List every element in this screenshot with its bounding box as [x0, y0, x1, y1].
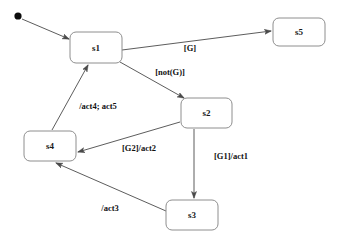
- state-node-s2[interactable]: s2: [181, 98, 232, 128]
- transition-s1-to-s5[interactable]: [122, 31, 271, 50]
- transition-label-s1-to-s5: [G]: [184, 43, 196, 53]
- states-layer: s1s5s2s4s3: [14, 12, 325, 230]
- transitions-layer: [22, 19, 271, 211]
- initial-pseudostate: [14, 12, 21, 19]
- transition-arrow-start-to-s1[interactable]: [22, 19, 69, 39]
- state-node-s1[interactable]: s1: [70, 32, 122, 63]
- transition-label-s1-to-s2: [not(G)]: [155, 67, 185, 77]
- state-node-s5[interactable]: s5: [273, 18, 325, 46]
- state-label-s1: s1: [92, 43, 101, 53]
- state-label-s5: s5: [295, 27, 304, 37]
- state-diagram-svg: s1s5s2s4s3 [G][not(G)]/act4; act5[G2]/ac…: [0, 0, 339, 242]
- state-node-s4[interactable]: s4: [24, 131, 76, 161]
- state-label-s2: s2: [202, 108, 211, 118]
- transition-label-s2-to-s4: [G2]/act2: [122, 143, 156, 153]
- transition-label-s2-to-s3: [G1]/act1: [214, 151, 248, 161]
- state-diagram-canvas: s1s5s2s4s3 [G][not(G)]/act4; act5[G2]/ac…: [0, 0, 339, 242]
- transition-label-s3-to-s4: /act3: [100, 203, 118, 213]
- transition-s4-to-s1[interactable]: [52, 65, 88, 130]
- transition-arrow-s4-to-s1[interactable]: [52, 65, 88, 130]
- state-label-s3: s3: [188, 210, 197, 220]
- state-node-s3[interactable]: s3: [166, 200, 218, 230]
- transition-arrow-s1-to-s5[interactable]: [122, 31, 271, 50]
- transition-start-to-s1[interactable]: [22, 19, 69, 39]
- state-label-s4: s4: [46, 141, 55, 151]
- transition-label-s4-to-s1: /act4; act5: [78, 101, 117, 111]
